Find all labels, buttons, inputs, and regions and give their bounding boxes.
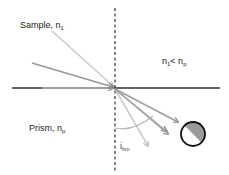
limit-angle-label: ilim (120, 142, 130, 152)
refractive-index-condition: n1< np (162, 57, 186, 67)
refracted-ray-3 (115, 89, 168, 134)
sample-label: Sample, n1 (20, 21, 64, 31)
detector-icon (181, 122, 205, 146)
prism-label: Prism, np (29, 124, 65, 134)
